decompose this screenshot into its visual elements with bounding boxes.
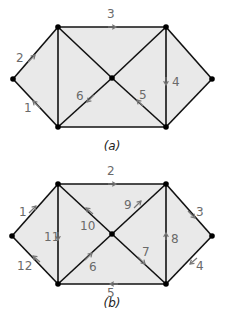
vertex-node [163,281,169,287]
edge-label: 9 [124,198,132,212]
edge-label: 10 [80,219,95,233]
edge-label: 1 [19,205,27,219]
edge-label: 3 [196,205,204,219]
vertex-node [163,124,169,130]
edge-label: 6 [76,89,84,103]
vertex-node [209,233,215,239]
diagram-a: 213456(a) [10,7,215,153]
edge-label: 6 [89,260,97,274]
graph-diagram-canvas: 213456(a)123456789101112(b) [0,0,230,335]
edge-label: 1 [24,101,32,115]
vertex-node [163,24,169,30]
vertex-node [55,181,61,187]
edge-label: 5 [139,88,147,102]
vertex-node [10,76,16,82]
diagram-caption: (a) [104,139,121,153]
edge-label: 7 [142,245,150,259]
vertex-node [9,233,15,239]
vertex-node [55,281,61,287]
vertex-node [55,24,61,30]
diagram-b: 123456789101112(b) [9,164,215,310]
edge-label: 12 [17,259,32,273]
vertex-node [55,124,61,130]
diagram-caption: (b) [104,296,121,310]
edge-label: 2 [16,51,24,65]
edge-label: 3 [107,7,115,21]
vertex-node [109,231,115,237]
vertex-node [109,75,115,81]
edge-label: 2 [107,164,115,178]
edge-label: 11 [44,230,59,244]
vertex-node [209,76,215,82]
vertex-node [163,181,169,187]
edge-label: 8 [171,232,179,246]
edge-label: 4 [196,259,204,273]
edge-label: 4 [172,75,180,89]
